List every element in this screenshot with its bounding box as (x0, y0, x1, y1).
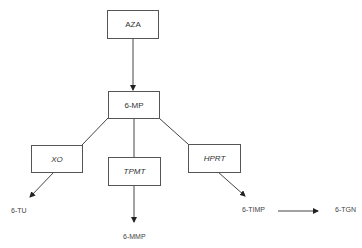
edge-6mp-xo (82, 118, 108, 145)
product-6tu: 6-TU (11, 207, 27, 214)
edge-6mp-hprt (159, 118, 188, 144)
node-tpmt: TPMT (108, 157, 161, 186)
node-hprt-label: HPRT (204, 154, 226, 163)
diagram-connectors (0, 0, 362, 248)
product-6timp: 6-TIMP (242, 206, 265, 213)
product-6mmp: 6-MMP (123, 233, 146, 240)
edge-hprt-6timp (218, 172, 245, 196)
node-tpmt-label: TPMT (124, 167, 146, 176)
node-xo: XO (31, 145, 83, 173)
edge-xo-6tu (30, 172, 54, 197)
node-6mp: 6-MP (108, 91, 160, 119)
product-6tgn: 6-TGN (335, 206, 356, 213)
node-aza: AZA (107, 10, 159, 39)
node-hprt: HPRT (188, 144, 241, 173)
node-xo-label: XO (51, 155, 63, 164)
node-aza-label: AZA (125, 20, 141, 29)
node-6mp-label: 6-MP (124, 101, 143, 110)
